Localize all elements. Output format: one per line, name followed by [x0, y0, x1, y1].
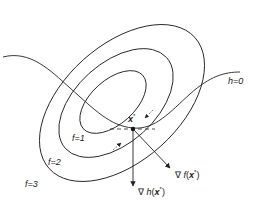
diagram-svg: [0, 0, 258, 209]
diagram-canvas: h=0 x* f=1 f=2 f=3 ∇ f(x*) ∇ h(x*): [0, 0, 258, 209]
nabla-icon: ∇: [175, 170, 181, 180]
grad-f-label: ∇ f(x*): [175, 169, 199, 180]
grad-h-sup: *: [160, 186, 162, 192]
contour-label-f2: f=2: [48, 158, 61, 167]
point-label-sup: *: [133, 113, 135, 119]
grad-f-sup: *: [194, 169, 196, 175]
grad-f-arrow: [133, 129, 170, 168]
grad-h-label: ∇ h(x*): [138, 186, 165, 197]
contour-label-f1: f=1: [72, 134, 85, 143]
contour-f2: [39, 28, 194, 178]
contour-label-f3: f=3: [25, 180, 38, 189]
constraint-label: h=0: [228, 77, 243, 86]
grad-h-func: h: [147, 187, 152, 197]
point-label: x*: [128, 113, 135, 124]
grad-f-func: f: [184, 170, 187, 180]
constraint-label-text: h=0: [228, 76, 243, 86]
contour-f3: [10, 0, 233, 209]
nabla-icon: ∇: [138, 187, 144, 197]
tangent-arrow-upper: [145, 110, 153, 118]
